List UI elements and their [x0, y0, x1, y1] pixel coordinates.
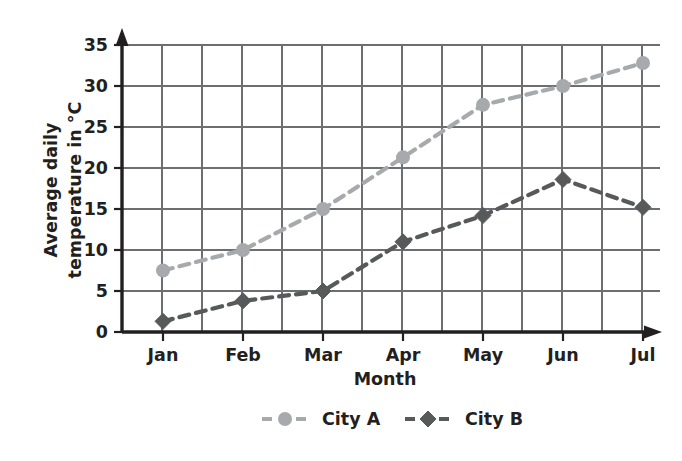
- data-point-marker: [278, 412, 292, 426]
- data-point-marker: [636, 56, 650, 70]
- x-axis-tick-label: Apr: [386, 345, 421, 365]
- data-point-marker: [476, 98, 490, 112]
- chart-canvas: 05101520253035 JanFebMarAprMayJunJul Ave…: [0, 0, 682, 461]
- data-point-marker: [156, 264, 170, 278]
- y-axis-title-line-1: Average daily: [41, 122, 61, 257]
- data-point-marker: [316, 202, 330, 216]
- y-axis-tick-label: 35: [84, 35, 108, 55]
- y-axis-tick-label: 5: [96, 281, 108, 301]
- y-axis-tick-label: 30: [84, 76, 108, 96]
- legend-label: City A: [322, 409, 381, 429]
- line-chart: 05101520253035 JanFebMarAprMayJunJul Ave…: [0, 0, 682, 461]
- x-axis-tick-label: May: [463, 345, 504, 365]
- x-axis-title: Month: [354, 369, 417, 389]
- x-axis-tick-label: Feb: [225, 345, 261, 365]
- y-axis-tick-label: 10: [84, 240, 108, 260]
- y-axis-tick-label: 0: [96, 322, 108, 342]
- legend-label: City B: [465, 409, 523, 429]
- chart-background: [0, 0, 682, 461]
- data-point-marker: [396, 150, 410, 164]
- x-axis-tick-label: Jul: [630, 345, 656, 365]
- x-axis-tick-label: Jun: [546, 345, 578, 365]
- x-axis-tick-label: Mar: [304, 345, 342, 365]
- y-axis-tick-label: 20: [84, 158, 108, 178]
- x-axis-tick-label: Jan: [147, 345, 179, 365]
- y-axis-title-line-2: temperature in °C: [65, 102, 85, 279]
- y-axis-tick-label: 25: [84, 117, 108, 137]
- data-point-marker: [556, 79, 570, 93]
- data-point-marker: [236, 243, 250, 257]
- y-axis-tick-label: 15: [84, 199, 108, 219]
